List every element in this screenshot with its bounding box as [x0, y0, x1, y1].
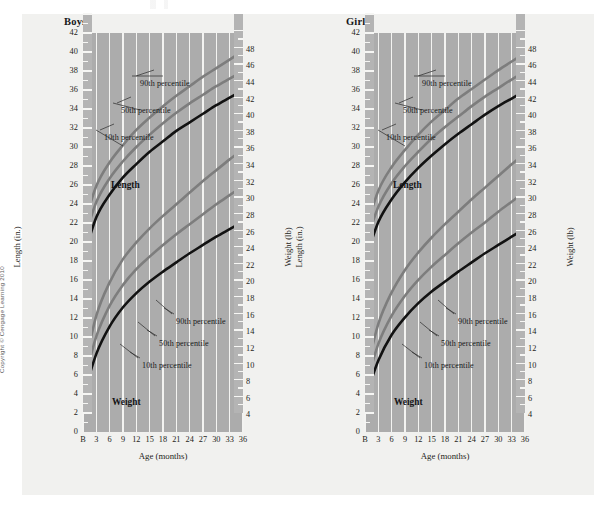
axis-tick-major	[516, 196, 525, 197]
y-axis-tick-label-right: 32	[528, 178, 558, 187]
axis-tick-major	[234, 130, 243, 131]
y-axis-tick-label-right: 22	[528, 261, 558, 270]
axis-tick-major	[83, 222, 92, 223]
series-group-label-length-boys: Length	[111, 180, 140, 190]
series-group-label-weight-girls: Weight	[394, 397, 423, 407]
y-axis-tick-label-left: 24	[48, 199, 78, 208]
y-axis-tick-label-left: 38	[48, 66, 78, 75]
axis-tick-minor	[238, 38, 243, 39]
axis-tick-minor	[520, 55, 525, 56]
axis-tick-major	[234, 63, 243, 64]
axis-tick-major	[516, 313, 525, 314]
axis-tick-minor	[365, 422, 370, 423]
annotation-length-90-boys: 90th percentile	[140, 79, 190, 88]
axis-tick-major	[516, 329, 525, 330]
y-axis-tick-label-left: 10	[330, 332, 360, 341]
axis-tick-minor	[520, 271, 525, 272]
axis-tick-major	[365, 203, 374, 204]
axis-tick-minor	[83, 384, 88, 385]
y-axis-tick-label-left: 40	[48, 47, 78, 56]
x-axis-title-girls: Age (months)	[365, 451, 525, 461]
axis-tick-major	[365, 184, 374, 185]
axis-tick-major	[83, 374, 92, 375]
axis-tick-minor	[520, 404, 525, 405]
axis-tick-minor	[365, 327, 370, 328]
axis-tick-minor	[238, 404, 243, 405]
axis-tick-minor	[83, 156, 88, 157]
axis-tick-minor	[365, 403, 370, 404]
axis-tick-minor	[238, 271, 243, 272]
axis-tick-major	[365, 146, 374, 147]
axis-tick-minor	[520, 38, 525, 39]
axis-tick-major	[234, 379, 243, 380]
chart-panel-girls: Girls Length (in.) Weight (lb) Age (mont…	[310, 14, 582, 474]
annotation-leader-line	[156, 300, 172, 314]
axis-tick-major	[516, 130, 525, 131]
y-axis-tick-label-right: 20	[528, 277, 558, 286]
axis-tick-major	[234, 329, 243, 330]
axis-tick-minor	[520, 88, 525, 89]
axis-tick-minor	[238, 88, 243, 89]
axis-tick-minor	[365, 232, 370, 233]
axis-tick-major	[83, 355, 92, 356]
y-axis-tick-label-left: 32	[48, 123, 78, 132]
axis-tick-major	[516, 296, 525, 297]
axis-tick-major	[83, 127, 92, 128]
tick-band-left	[365, 14, 374, 413]
tick-band-right	[234, 14, 243, 413]
y-axis-tick-label-left: 12	[330, 313, 360, 322]
y-axis-tick-label-left: 32	[330, 123, 360, 132]
y-axis-tick-label-right: 22	[246, 261, 276, 270]
annotation-leader-line	[138, 322, 155, 336]
axis-tick-major	[365, 374, 374, 375]
axis-tick-major	[83, 70, 92, 71]
axis-tick-major	[365, 70, 374, 71]
y-axis-tick-label-left: 2	[330, 408, 360, 417]
y-axis-tick-label-left: 22	[48, 218, 78, 227]
axis-tick-minor	[365, 99, 370, 100]
axis-tick-major	[516, 47, 525, 48]
axis-tick-minor	[365, 213, 370, 214]
y-axis-tick-label-right: 8	[528, 377, 558, 386]
axis-tick-major	[83, 165, 92, 166]
y-axis-tick-label-left: 38	[330, 66, 360, 75]
axis-tick-minor	[520, 171, 525, 172]
axis-tick-minor	[83, 327, 88, 328]
axis-tick-major	[516, 246, 525, 247]
axis-tick-major	[234, 396, 243, 397]
axis-tick-minor	[238, 188, 243, 189]
axis-tick-major	[234, 230, 243, 231]
annotation-leader-line	[382, 124, 396, 130]
axis-tick-major	[234, 263, 243, 264]
y-axis-tick-label-left: 22	[330, 218, 360, 227]
axis-tick-minor	[83, 365, 88, 366]
y-axis-title-left-boys: Length (in.)	[12, 226, 22, 267]
axis-tick-major	[365, 222, 374, 223]
axis-tick-minor	[238, 72, 243, 73]
axis-tick-major	[365, 89, 374, 90]
axis-tick-major	[234, 346, 243, 347]
axis-tick-major	[234, 296, 243, 297]
axis-tick-minor	[238, 354, 243, 355]
curve-length-50th-percentile	[365, 72, 525, 246]
axis-tick-minor	[238, 321, 243, 322]
axis-tick-major	[516, 163, 525, 164]
y-axis-tick-label-right: 16	[246, 311, 276, 320]
axis-tick-major	[365, 165, 374, 166]
axis-tick-major	[516, 80, 525, 81]
axis-tick-major	[516, 30, 525, 31]
y-axis-tick-label-right: 6	[246, 394, 276, 403]
curve-length-10th-percentile	[365, 91, 525, 261]
axis-tick-major	[516, 346, 525, 347]
axis-tick-major	[234, 47, 243, 48]
axis-tick-major	[83, 13, 92, 14]
axis-tick-major	[83, 51, 92, 52]
annotation-length-90-girls: 90th percentile	[422, 79, 472, 88]
y-axis-tick-label-left: 18	[48, 256, 78, 265]
axis-tick-minor	[365, 251, 370, 252]
y-axis-tick-label-right: 4	[246, 410, 276, 419]
y-axis-tick-label-left: 34	[48, 104, 78, 113]
y-axis-tick-label-right: 18	[246, 294, 276, 303]
y-axis-tick-label-left: 36	[330, 85, 360, 94]
annotation-leader-line	[136, 70, 154, 76]
